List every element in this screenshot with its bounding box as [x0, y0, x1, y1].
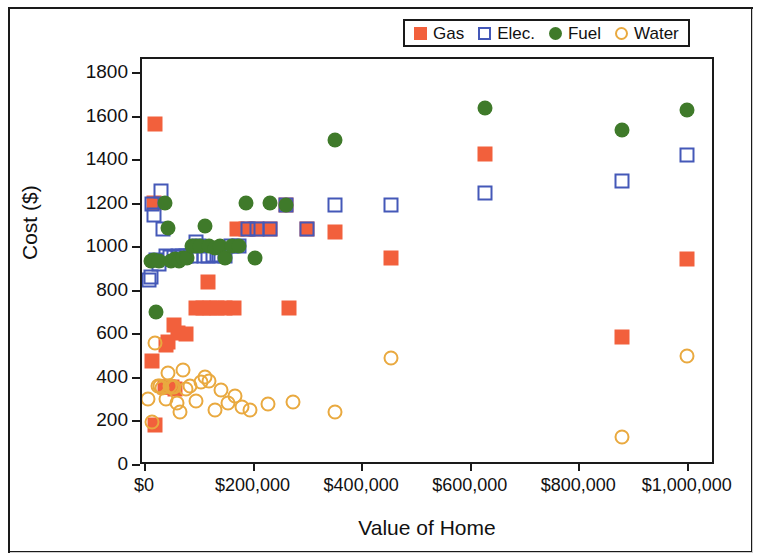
y-axis-tick-mark: [132, 246, 140, 248]
data-point-fuel: [248, 251, 263, 266]
x-axis-tick-mark: [578, 462, 580, 471]
data-point-water: [176, 363, 191, 378]
y-axis-tick-mark: [132, 420, 140, 422]
y-axis-tick-label: 800: [96, 279, 128, 301]
data-point-fuel: [279, 197, 294, 212]
y-axis-tick-label: 1600: [86, 105, 128, 127]
legend-item-elec[interactable]: Elec.: [478, 25, 535, 42]
y-axis-tick-label: 600: [96, 322, 128, 344]
open-square-icon: [478, 27, 491, 40]
filled-square-icon: [414, 27, 427, 40]
y-axis-tick-mark: [132, 72, 140, 74]
data-point-water: [384, 351, 399, 366]
y-axis-tick-label: 0: [117, 453, 128, 475]
x-axis-tick-label: $0: [134, 475, 154, 496]
x-axis-tick-label: $200,000: [215, 475, 290, 496]
legend-item-label: Water: [634, 25, 679, 42]
legend-item-fuel[interactable]: Fuel: [549, 25, 601, 42]
data-point-elec: [614, 173, 629, 188]
data-point-elec: [384, 197, 399, 212]
data-point-fuel: [197, 218, 212, 233]
data-point-fuel: [614, 122, 629, 137]
y-axis-tick-mark: [132, 464, 140, 466]
x-axis-tick-mark: [253, 462, 255, 471]
scatter-chart: GasElec.FuelWater Cost ($) 0200400600800…: [0, 0, 761, 560]
data-point-elec: [299, 221, 314, 236]
y-axis-tick-mark: [132, 333, 140, 335]
data-point-gas: [328, 225, 343, 240]
data-point-gas: [679, 252, 694, 267]
y-axis-tick-label: 1400: [86, 148, 128, 170]
data-point-fuel: [161, 220, 176, 235]
data-point-gas: [147, 117, 162, 132]
plot-area: [142, 59, 712, 462]
data-point-elec: [143, 269, 158, 284]
y-axis-title: Cost ($): [18, 185, 42, 260]
data-point-gas: [477, 146, 492, 161]
data-point-fuel: [262, 195, 277, 210]
data-point-fuel: [679, 103, 694, 118]
data-point-water: [172, 404, 187, 419]
x-axis-tick-label: $400,000: [324, 475, 399, 496]
x-axis-tick-label: $800,000: [541, 475, 616, 496]
data-point-gas: [145, 353, 160, 368]
data-point-water: [286, 394, 301, 409]
data-point-water: [614, 429, 629, 444]
data-point-fuel: [232, 239, 247, 254]
data-point-elec: [328, 197, 343, 212]
legend-item-label: Elec.: [497, 25, 535, 42]
legend-item-gas[interactable]: Gas: [414, 25, 464, 42]
y-axis-tick-mark: [132, 159, 140, 161]
data-point-fuel: [157, 195, 172, 210]
data-point-gas: [384, 251, 399, 266]
y-axis-tick-label: 400: [96, 366, 128, 388]
data-point-fuel: [328, 132, 343, 147]
data-point-elec: [679, 147, 694, 162]
data-point-water: [147, 336, 162, 351]
legend-item-label: Fuel: [568, 25, 601, 42]
data-point-water: [243, 402, 258, 417]
x-axis-title: Value of Home: [140, 516, 714, 540]
data-point-gas: [226, 300, 241, 315]
x-axis-tick-mark: [687, 462, 689, 471]
x-axis-tick-label: $1,000,000: [642, 475, 732, 496]
y-axis-tick-label: 1800: [86, 61, 128, 83]
data-point-gas: [179, 326, 194, 341]
y-axis-tick-mark: [132, 290, 140, 292]
y-axis-tick-mark: [132, 116, 140, 118]
data-point-fuel: [148, 304, 163, 319]
data-point-elec: [477, 185, 492, 200]
data-point-gas: [201, 275, 216, 290]
y-axis-tick-mark: [132, 203, 140, 205]
x-axis-tick-mark: [470, 462, 472, 471]
data-point-water: [679, 349, 694, 364]
chart-legend: GasElec.FuelWater: [403, 19, 690, 47]
y-axis-tick-label: 200: [96, 409, 128, 431]
filled-circle-icon: [549, 27, 562, 40]
data-point-gas: [282, 300, 297, 315]
y-axis-tick-mark: [132, 377, 140, 379]
data-point-elec: [146, 207, 161, 222]
data-point-water: [328, 404, 343, 419]
data-point-gas: [614, 329, 629, 344]
y-axis-tick-label: 1200: [86, 192, 128, 214]
x-axis-tick-label: $600,000: [432, 475, 507, 496]
data-point-fuel: [239, 195, 254, 210]
data-point-water: [142, 391, 156, 406]
legend-item-label: Gas: [433, 25, 464, 42]
data-point-water: [188, 393, 203, 408]
x-axis-tick-mark: [361, 462, 363, 471]
data-point-water: [144, 414, 159, 429]
legend-item-water[interactable]: Water: [615, 25, 679, 42]
plot-frame: 020040060080010001200140016001800$0$200,…: [140, 57, 714, 464]
data-point-elec: [262, 221, 277, 236]
y-axis-tick-label: 1000: [86, 235, 128, 257]
x-axis-tick-mark: [144, 462, 146, 471]
data-point-fuel: [477, 100, 492, 115]
data-point-water: [260, 397, 275, 412]
open-circle-icon: [615, 27, 628, 40]
